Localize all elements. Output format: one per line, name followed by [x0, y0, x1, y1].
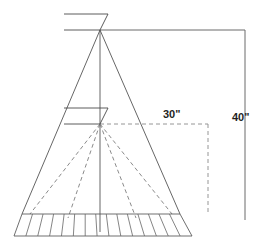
dimension-label-30: 30" — [163, 108, 180, 120]
beam-spread-diagram: 30" 40" — [0, 0, 261, 245]
diagram-canvas: 30" 40" — [0, 0, 261, 245]
dimension-label-40: 40" — [232, 111, 249, 123]
diagram-background — [0, 0, 261, 245]
